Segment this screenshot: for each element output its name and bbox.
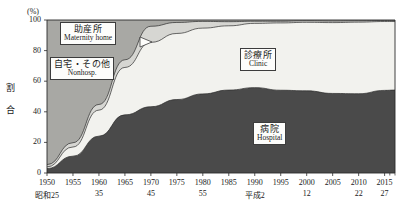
- y-tick-label-80: 80: [19, 46, 41, 55]
- legend-hospital: 病院 Hospital: [253, 122, 286, 145]
- x-era-label-平成2: 平成2: [235, 189, 275, 200]
- x-era-label-35: 35: [79, 189, 119, 198]
- y-tick-label-40: 40: [19, 107, 41, 116]
- y-tick-label-0: 0: [19, 168, 41, 177]
- x-era-label-昭和25: 昭和25: [27, 189, 67, 200]
- legend-maternity-home-en: Maternity home: [64, 34, 112, 42]
- x-era-label-55: 55: [183, 189, 223, 198]
- y-tick-label-60: 60: [19, 76, 41, 85]
- y-tick-label-20: 20: [19, 137, 41, 146]
- legend-clinic-en: Clinic: [244, 60, 272, 68]
- legend-nonhosp-en: Nonhosp.: [54, 69, 110, 77]
- legend-nonhosp: 自宅・その他 Nonhosp.: [50, 57, 114, 80]
- y-tick-label-100: 100: [19, 15, 41, 24]
- legend-hospital-en: Hospital: [257, 134, 282, 142]
- y-axis-title-char-2: 合: [4, 106, 16, 115]
- legend-maternity-home: 助産所 Maternity home: [60, 22, 116, 45]
- y-axis-title-char-1: 割: [4, 84, 16, 93]
- x-tick-label-2015: 2015: [368, 178, 402, 187]
- x-era-label-12: 12: [287, 189, 327, 198]
- x-era-label-27: 27: [365, 189, 405, 198]
- legend-clinic: 診療所 Clinic: [240, 48, 276, 71]
- chart-container: (%) 割 合 020406080100 1950195519601965197…: [0, 0, 417, 215]
- x-era-label-45: 45: [131, 189, 171, 198]
